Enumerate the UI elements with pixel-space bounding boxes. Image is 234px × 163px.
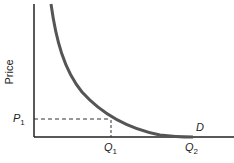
q1-label: Q1 — [104, 141, 117, 156]
y-axis-label: Price — [3, 59, 15, 84]
demand-label: D — [196, 121, 204, 133]
q2-label: Q2 — [185, 141, 198, 156]
demand-curve-diagram — [0, 0, 234, 163]
demand-curve — [51, 4, 193, 137]
p1-label: P1 — [13, 112, 25, 127]
